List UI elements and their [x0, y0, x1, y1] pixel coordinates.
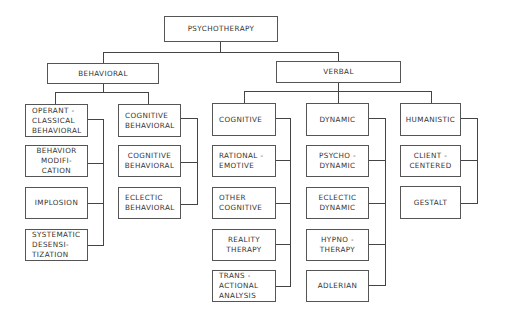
node-dynamic: DYNAMIC [306, 103, 369, 136]
connector-root-bar [103, 52, 338, 53]
connector-to-behavioral [103, 52, 104, 63]
node-behavior-modification: BEHAVIOR MODIFI- CATION [25, 145, 88, 177]
node-cognitive-behavioral: COGNITIVE BEHAVIORAL [118, 145, 181, 177]
bracket-tick [461, 203, 478, 204]
node-humanistic: HUMANISTIC [400, 103, 461, 136]
bracket-tick [276, 118, 291, 119]
bracket-tick [276, 286, 291, 287]
node-hypnotherapy: HYPNO - THERAPY [306, 229, 369, 261]
node-cognitive: COGNITIVE [212, 103, 276, 136]
node-eclectic-behavioral: ECLECTIC BEHAVIORAL [118, 187, 181, 219]
bracket-tick [276, 160, 291, 161]
node-other-cognitive: OTHER COGNITIVE [212, 187, 276, 219]
bracket-tick [181, 204, 198, 205]
node-behavioral: BEHAVIORAL [47, 63, 159, 84]
connector-to-verbal [338, 52, 339, 61]
node-cognitive-behavioral-group: COGNITIVE BEHAVIORAL [118, 104, 181, 137]
connector-to-cognitive [244, 91, 245, 103]
bracket-tick [369, 203, 386, 204]
bracket-tick [181, 162, 198, 163]
connector-to-operant [55, 92, 56, 104]
bracket-tick [276, 203, 291, 204]
bracket-tick [88, 119, 104, 120]
connector-to-dynamic [338, 91, 339, 103]
node-adlerian: ADLERIAN [306, 270, 369, 302]
bracket-tick [369, 118, 386, 119]
connector-to-humanistic [431, 91, 432, 103]
node-psychodynamic: PSYCHO - DYNAMIC [306, 145, 369, 177]
connector-to-cog-behavioral [148, 92, 149, 104]
node-implosion: IMPLOSION [25, 187, 88, 219]
bracket-behavioral-col1 [103, 119, 104, 246]
node-gestalt: GESTALT [400, 186, 461, 219]
bracket-tick [88, 245, 104, 246]
bracket-tick [369, 160, 386, 161]
bracket-tick [461, 118, 478, 119]
bracket-tick [88, 203, 104, 204]
connector-behavioral-bar [55, 92, 149, 93]
bracket-tick [181, 118, 198, 119]
bracket-dynamic [385, 118, 386, 286]
bracket-tick [369, 285, 386, 286]
bracket-tick [88, 163, 104, 164]
node-rational-emotive: RATIONAL - EMOTIVE [212, 145, 276, 177]
node-systematic-desensitization: SYSTEMATIC DESENSI- TIZATION [25, 229, 88, 261]
bracket-tick [461, 160, 478, 161]
node-operant-classical-behavioral: OPERANT - CLASSICAL BEHAVIORAL [25, 104, 88, 137]
bracket-tick [369, 244, 386, 245]
node-reality-therapy: REALITY THERAPY [212, 229, 276, 261]
bracket-tick [276, 244, 291, 245]
node-verbal: VERBAL [276, 61, 401, 83]
node-psychotherapy: PSYCHOTHERAPY [164, 16, 278, 42]
node-transactional-analysis: TRANS - ACTIONAL ANALYSIS [212, 270, 276, 302]
node-client-centered: CLIENT - CENTERED [400, 145, 461, 177]
node-eclectic-dynamic: ECLECTIC DYNAMIC [306, 187, 369, 219]
